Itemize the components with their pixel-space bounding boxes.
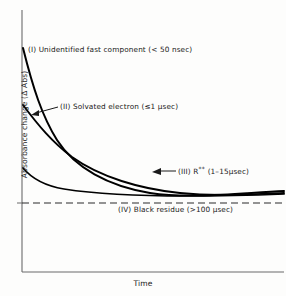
y-axis-title: Absorbance change (Δ Abs) (20, 55, 29, 195)
annotation-r-prefix: (III) R (178, 167, 198, 176)
annotation-black-residue: (IV) Black residue (>100 μsec) (118, 206, 233, 213)
curve-solvated-electron (23, 105, 284, 195)
annotation-r-suffix: (1–15μsec) (205, 167, 249, 176)
annotation-solvated-electron: (II) Solvated electron (≤1 μsec) (60, 103, 178, 110)
kinetics-decay-figure: (I) Unidentified fast component (< 50 ns… (0, 0, 286, 296)
x-axis-title: Time (0, 279, 286, 288)
annotation-r-excited-state: (III) R** (1–15μsec) (178, 166, 249, 176)
annotation-unidentified-fast-component: (I) Unidentified fast component (< 50 ns… (28, 46, 192, 53)
leader-arrow-r-excited-state (152, 168, 176, 175)
